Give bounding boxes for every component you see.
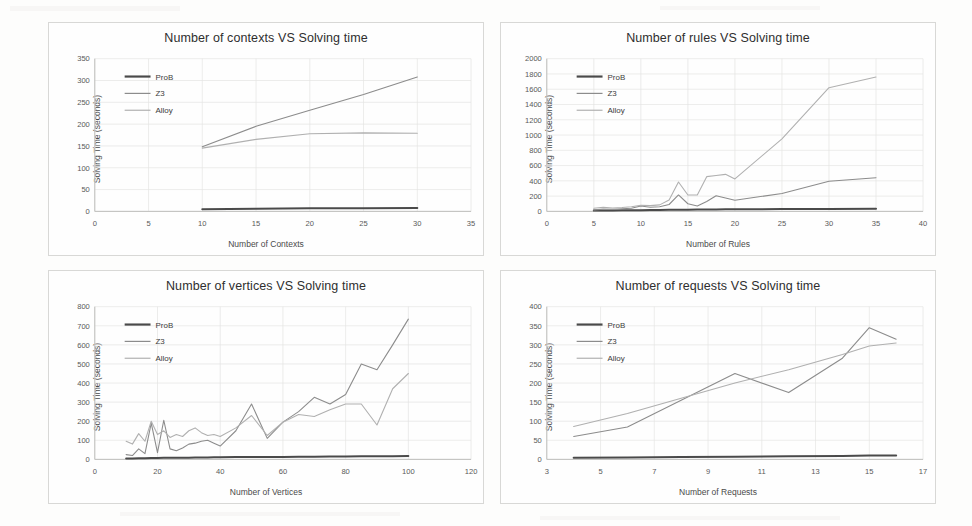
y-tick-label: 2000: [525, 54, 542, 63]
y-tick-label: 350: [529, 322, 542, 331]
y-tick-label: 400: [529, 302, 542, 311]
chart-panel-vertices: Number of vertices VS Solving time Solvi…: [48, 270, 484, 504]
x-tick-label: 25: [359, 219, 367, 228]
x-tick-label: 25: [778, 219, 786, 228]
y-tick-label: 50: [81, 185, 89, 194]
x-tick-label: 15: [252, 219, 260, 228]
y-tick-label: 400: [529, 177, 542, 186]
x-tick-label: 0: [545, 219, 549, 228]
legend-label-z3: Z3: [156, 337, 166, 346]
x-tick-label: 120: [465, 467, 478, 476]
x-tick-label: 3: [545, 467, 549, 476]
x-tick-label: 30: [413, 219, 421, 228]
x-tick-label: 15: [684, 219, 692, 228]
y-tick-label: 250: [529, 360, 542, 369]
x-tick-label: 20: [731, 219, 739, 228]
y-tick-label: 200: [529, 192, 542, 201]
series-line-z3: [574, 328, 897, 437]
x-tick-label: 20: [153, 467, 161, 476]
x-tick-label: 0: [93, 467, 97, 476]
y-tick-label: 0: [86, 455, 90, 464]
y-tick-label: 400: [77, 379, 90, 388]
y-tick-label: 0: [538, 207, 542, 216]
y-tick-label: 100: [77, 164, 90, 173]
x-tick-label: 15: [865, 467, 873, 476]
chart-svg-rules: 0200400600800100012001400160018002000051…: [501, 23, 935, 255]
y-tick-label: 100: [529, 417, 542, 426]
x-tick-label: 5: [592, 219, 596, 228]
legend-label-alloy: Alloy: [156, 354, 173, 363]
y-tick-label: 700: [77, 322, 90, 331]
legend-label-alloy: Alloy: [608, 354, 625, 363]
x-tick-label: 13: [811, 467, 819, 476]
y-tick-label: 800: [529, 146, 542, 155]
legend-label-z3: Z3: [156, 89, 166, 98]
chart-panel-contexts: Number of contexts VS Solving time Solvi…: [48, 22, 484, 256]
legend-label-prob: ProB: [608, 73, 626, 82]
y-tick-label: 150: [529, 398, 542, 407]
x-tick-label: 0: [93, 219, 97, 228]
x-tick-label: 5: [146, 219, 150, 228]
x-tick-label: 100: [402, 467, 415, 476]
x-tick-label: 30: [825, 219, 833, 228]
y-tick-label: 200: [77, 417, 90, 426]
x-tick-label: 9: [706, 467, 710, 476]
legend-label-alloy: Alloy: [156, 106, 173, 115]
y-tick-label: 1400: [525, 100, 542, 109]
chart-panel-rules: Number of rules VS Solving time Solving …: [500, 22, 936, 256]
x-tick-label: 5: [598, 467, 602, 476]
y-tick-label: 300: [77, 398, 90, 407]
x-tick-label: 11: [758, 467, 766, 476]
series-line-prob: [202, 208, 417, 209]
series-line-prob: [126, 456, 408, 458]
legend-label-prob: ProB: [608, 321, 626, 330]
x-tick-label: 7: [652, 467, 656, 476]
legend-label-z3: Z3: [608, 89, 618, 98]
legend-label-prob: ProB: [156, 321, 174, 330]
plot-area-contexts: Solving Time (seconds) Number of Context…: [49, 23, 483, 255]
chart-svg-vertices: 0100200300400500600700800020406080100120…: [49, 271, 483, 503]
y-tick-label: 150: [77, 142, 90, 151]
y-tick-label: 600: [529, 161, 542, 170]
chart-panel-requests: Number of requests VS Solving time Solvi…: [500, 270, 936, 504]
x-tick-label: 60: [279, 467, 287, 476]
x-tick-label: 40: [919, 219, 927, 228]
y-tick-label: 200: [77, 120, 90, 129]
x-tick-label: 20: [306, 219, 314, 228]
legend-label-prob: ProB: [156, 73, 174, 82]
y-tick-label: 500: [77, 360, 90, 369]
y-tick-label: 50: [533, 436, 541, 445]
y-tick-label: 350: [77, 54, 90, 63]
y-tick-label: 300: [529, 341, 542, 350]
y-tick-label: 600: [77, 341, 90, 350]
y-tick-label: 800: [77, 302, 90, 311]
y-tick-label: 100: [77, 436, 90, 445]
x-tick-label: 10: [198, 219, 206, 228]
y-tick-label: 1200: [525, 116, 542, 125]
y-tick-label: 250: [77, 98, 90, 107]
y-tick-label: 0: [86, 207, 90, 216]
series-line-alloy: [126, 373, 408, 444]
chart-grid: Number of contexts VS Solving time Solvi…: [48, 22, 936, 504]
y-tick-label: 1600: [525, 85, 542, 94]
x-tick-label: 35: [467, 219, 475, 228]
legend-label-alloy: Alloy: [608, 106, 625, 115]
chart-svg-contexts: 05010015020025030035005101520253035ProBZ…: [49, 23, 483, 255]
y-tick-label: 300: [77, 76, 90, 85]
y-tick-label: 1800: [525, 70, 542, 79]
y-tick-label: 200: [529, 379, 542, 388]
plot-area-rules: Solving Time (seconds) Number of Rules 0…: [501, 23, 935, 255]
y-tick-label: 1000: [525, 131, 542, 140]
chart-svg-requests: 050100150200250300350400357911131517ProB…: [501, 271, 935, 503]
y-tick-label: 0: [538, 455, 542, 464]
x-tick-label: 17: [919, 467, 927, 476]
scanned-page: Number of contexts VS Solving time Solvi…: [0, 0, 972, 526]
plot-area-vertices: Solving Time (seconds) Number of Vertice…: [49, 271, 483, 503]
series-line-prob: [574, 456, 897, 458]
x-tick-label: 40: [216, 467, 224, 476]
x-tick-label: 35: [872, 219, 880, 228]
x-tick-label: 80: [341, 467, 349, 476]
legend-label-z3: Z3: [608, 337, 618, 346]
plot-area-requests: Solving Time (seconds) Number of Request…: [501, 271, 935, 503]
x-tick-label: 10: [637, 219, 645, 228]
